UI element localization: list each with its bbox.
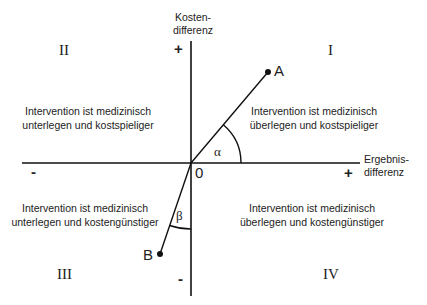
y-axis-minus: -	[178, 270, 183, 287]
beta-arc	[170, 226, 191, 230]
origin-label: 0	[195, 164, 203, 181]
quadrant-4-line1: Intervention ist medizinisch	[227, 201, 397, 215]
beta-label: β	[176, 208, 183, 224]
cost-effectiveness-plane: Kosten- differenz + - Ergebnis- differen…	[0, 0, 427, 305]
quadrant-2-description: Intervention ist medizinisch unterlegen …	[3, 104, 173, 132]
x-axis-label-line1: Ergebnis-	[364, 153, 420, 166]
quadrant-4-line2: überlegen und kostengünstiger	[227, 215, 397, 229]
y-axis-label-line2: differenz	[168, 24, 218, 37]
quadrant-1-line2: überlegen und kostspieliger	[229, 118, 399, 132]
y-axis-label-line1: Kosten-	[168, 11, 218, 24]
y-axis-plus: +	[174, 40, 183, 57]
y-axis-label: Kosten- differenz	[168, 11, 218, 37]
alpha-label: α	[214, 144, 221, 160]
point-b-marker	[157, 251, 163, 257]
quadrant-2-line1: Intervention ist medizinisch	[3, 104, 173, 118]
quadrant-3-line1: Intervention ist medizinisch	[0, 201, 170, 215]
point-a-marker	[265, 69, 271, 75]
quadrant-4-description: Intervention ist medizinisch überlegen u…	[227, 201, 397, 229]
quadrant-1-line1: Intervention ist medizinisch	[229, 104, 399, 118]
quadrant-numeral-2: II	[59, 42, 69, 59]
quadrant-numeral-1: I	[328, 42, 333, 59]
x-axis-plus: +	[344, 164, 353, 181]
x-axis-minus: -	[31, 163, 36, 180]
x-axis-label-line2: differenz	[364, 166, 420, 179]
x-axis-label: Ergebnis- differenz	[364, 153, 420, 179]
quadrant-numeral-4: IV	[323, 266, 339, 283]
point-b-label: B	[143, 246, 153, 263]
quadrant-numeral-3: III	[57, 266, 72, 283]
quadrant-3-description: Intervention ist medizinisch unterlegen …	[0, 201, 170, 229]
quadrant-1-description: Intervention ist medizinisch überlegen u…	[229, 104, 399, 132]
quadrant-2-line2: unterlegen und kostspieliger	[3, 118, 173, 132]
point-a-label: A	[274, 62, 284, 79]
quadrant-3-line2: unterlegen und kostengünstiger	[0, 215, 170, 229]
